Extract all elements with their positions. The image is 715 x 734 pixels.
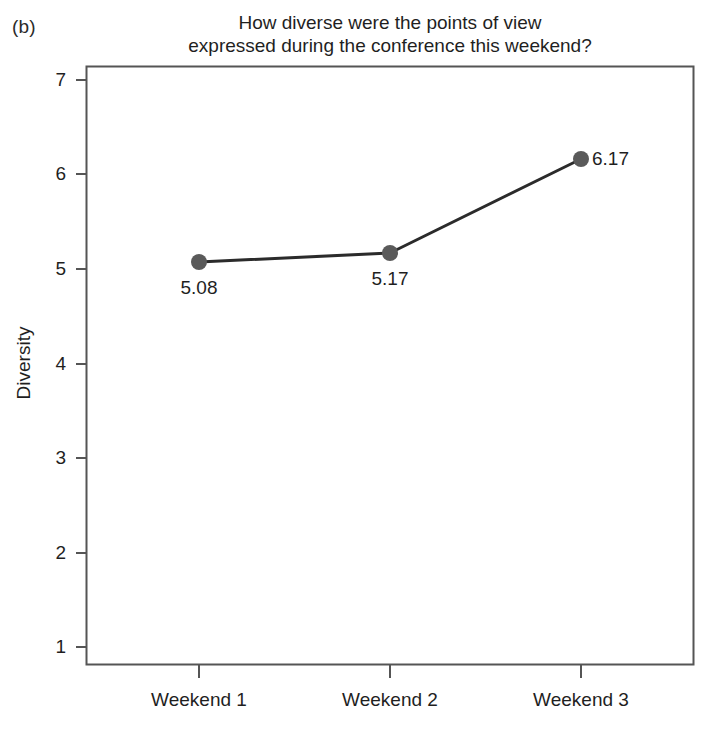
y-tick-label-1: 1	[26, 636, 66, 658]
y-tick-label-5: 5	[26, 258, 66, 280]
y-axis-ticks	[76, 80, 86, 647]
data-point-weekend-3[interactable]	[573, 151, 589, 167]
data-label-weekend-2: 5.17	[345, 268, 435, 290]
data-label-weekend-3: 6.17	[592, 148, 629, 170]
figure-panel: (b) How diverse were the points of view …	[0, 0, 715, 734]
y-tick-label-4: 4	[26, 353, 66, 375]
x-tick-label-weekend-3: Weekend 3	[491, 689, 671, 711]
plot-area	[0, 0, 715, 734]
y-tick-label-6: 6	[26, 163, 66, 185]
x-tick-label-weekend-1: Weekend 1	[109, 689, 289, 711]
y-tick-label-7: 7	[26, 69, 66, 91]
x-tick-label-weekend-2: Weekend 2	[300, 689, 480, 711]
x-axis-ticks	[199, 665, 581, 678]
y-tick-label-2: 2	[26, 542, 66, 564]
data-point-weekend-2[interactable]	[382, 245, 398, 261]
data-point-weekend-1[interactable]	[191, 254, 207, 270]
y-tick-label-3: 3	[26, 447, 66, 469]
data-label-weekend-1: 5.08	[154, 277, 244, 299]
